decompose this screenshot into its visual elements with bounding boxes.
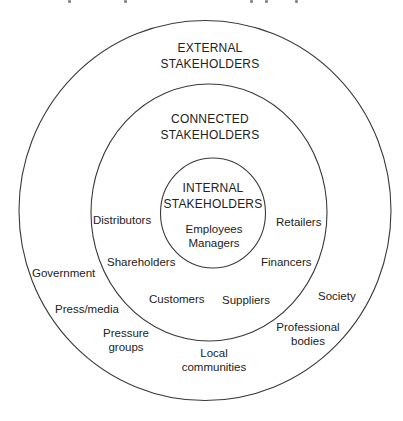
label-distributors: Distributors (93, 213, 151, 227)
connected-heading-line1: CONNECTED (150, 111, 270, 127)
connected-heading-line2: STAKEHOLDERS (150, 127, 270, 143)
label-professional-bodies: Professional bodies (270, 320, 346, 348)
label-pressure-groups-line2: groups (96, 340, 156, 354)
label-financers: Financers (261, 255, 312, 269)
label-local-communities-line2: communities (178, 360, 250, 374)
label-society: Society (318, 289, 356, 303)
internal-heading: INTERNAL STAKEHOLDERS (158, 180, 268, 212)
internal-heading-line2: STAKEHOLDERS (158, 196, 268, 212)
label-local-communities-line1: Local (178, 346, 250, 360)
label-professional-bodies-line2: bodies (270, 334, 346, 348)
internal-heading-line1: INTERNAL (158, 180, 268, 196)
label-pressure-groups: Pressure groups (96, 326, 156, 354)
connected-heading: CONNECTED STAKEHOLDERS (150, 111, 270, 143)
label-managers: Managers (178, 236, 250, 250)
label-customers: Customers (149, 292, 205, 306)
label-retailers: Retailers (276, 215, 321, 229)
label-local-communities: Local communities (178, 346, 250, 374)
label-shareholders: Shareholders (107, 255, 175, 269)
external-heading-line2: STAKEHOLDERS (150, 56, 270, 72)
label-pressure-groups-line1: Pressure (96, 326, 156, 340)
label-government: Government (32, 266, 95, 280)
label-professional-bodies-line1: Professional (270, 320, 346, 334)
label-employees: Employees (178, 222, 250, 236)
external-heading: EXTERNAL STAKEHOLDERS (150, 40, 270, 72)
label-press-media: Press/media (55, 302, 119, 316)
internal-ring (161, 158, 266, 268)
external-heading-line1: EXTERNAL (150, 40, 270, 56)
label-suppliers: Suppliers (222, 293, 270, 307)
